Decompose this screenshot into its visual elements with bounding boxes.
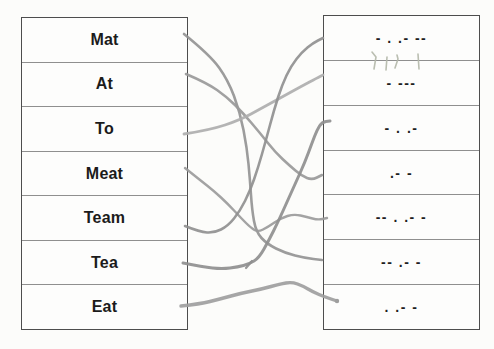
morse-label: . .- - (385, 299, 419, 315)
connector-line-team (185, 38, 323, 233)
morse-label: - --- (386, 75, 416, 91)
connector-line-mat (184, 34, 322, 260)
morse-cell: .- - (324, 151, 479, 196)
morse-table: - . .- -- - --- - . .- .- - -- . .- - --… (323, 15, 480, 330)
word-label: Mat (90, 31, 118, 49)
connector-line-to (184, 75, 323, 134)
word-cell: To (22, 107, 187, 152)
morse-cell: . .- - (324, 285, 479, 329)
morse-label: - . .- -- (376, 30, 428, 46)
morse-label: .- - (390, 165, 413, 181)
connector-line-tea (183, 121, 330, 269)
morse-label: - . .- (385, 120, 419, 136)
word-label: Tea (91, 254, 118, 272)
word-label: Eat (92, 298, 118, 316)
morse-cell: - --- (324, 61, 479, 106)
morse-cell: -- . .- - (324, 195, 479, 240)
word-cell: Tea (22, 241, 187, 286)
connector-line-eat (181, 283, 337, 306)
connector-line-at (186, 74, 322, 179)
worksheet-page: Mat At To Meat Team Tea Eat - . .- -- - … (0, 0, 494, 349)
word-cell: Team (22, 196, 187, 241)
connector-join-spur (246, 261, 252, 268)
word-cell: At (22, 63, 187, 108)
words-table: Mat At To Meat Team Tea Eat (21, 17, 188, 330)
morse-cell: - . .- -- (324, 16, 479, 61)
word-cell: Mat (22, 18, 187, 63)
word-cell: Eat (22, 285, 187, 329)
connector-line-meat (185, 168, 327, 231)
morse-cell: - . .- (324, 106, 479, 151)
morse-cell: -- .- - (324, 240, 479, 285)
word-label: At (96, 75, 113, 93)
word-cell: Meat (22, 152, 187, 197)
word-label: Team (84, 209, 125, 227)
word-label: To (95, 120, 114, 138)
word-label: Meat (86, 165, 123, 183)
morse-label: -- .- - (381, 254, 422, 270)
morse-label: -- . .- - (376, 209, 428, 225)
